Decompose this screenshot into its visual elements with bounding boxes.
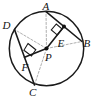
vertex-label-f: F xyxy=(21,61,29,73)
circle-geometry-diagram: A B C D E F P xyxy=(0,0,93,97)
vertex-label-p: P xyxy=(44,51,52,63)
geometry-figure: A B C D E F P xyxy=(0,0,93,97)
point-marker-e xyxy=(62,25,66,29)
right-angle-marker-e xyxy=(51,24,62,35)
vertex-label-c: C xyxy=(29,86,37,98)
vertex-label-a: A xyxy=(42,0,50,12)
vertex-label-e: E xyxy=(57,37,65,49)
vertex-label-b: B xyxy=(84,37,91,49)
point-marker-p xyxy=(45,47,49,51)
vertex-label-d: D xyxy=(2,19,11,31)
radius-pa-dashed xyxy=(46,12,47,49)
